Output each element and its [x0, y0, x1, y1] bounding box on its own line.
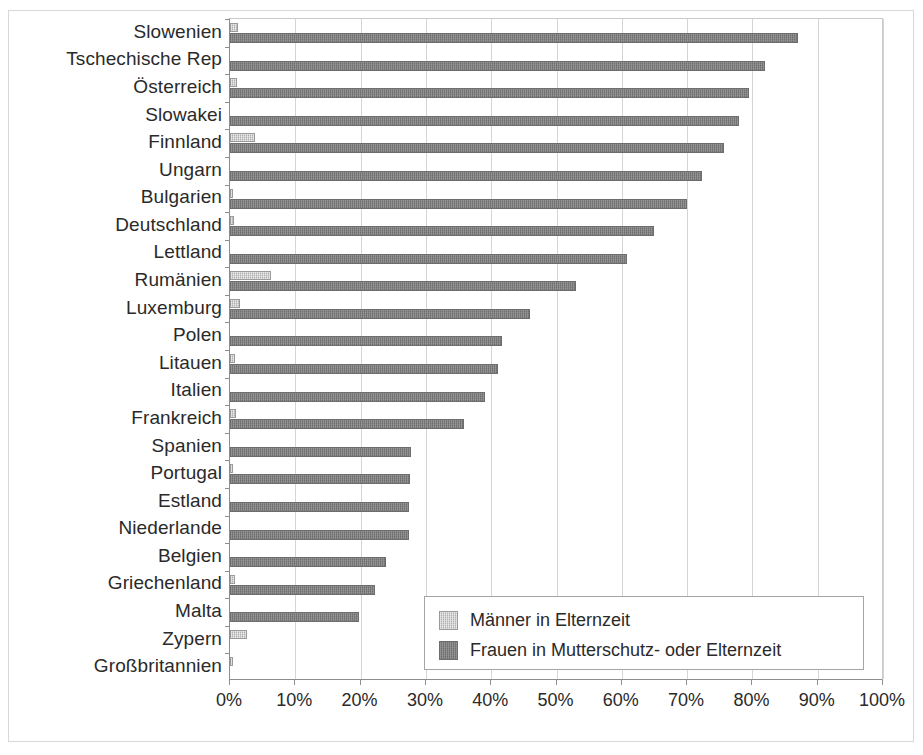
legend-swatch-maenner-icon [439, 611, 458, 630]
bar-maenner [230, 409, 236, 418]
plot-area [229, 18, 883, 680]
y-axis-tick [225, 240, 230, 241]
x-axis-tick-label: 100% [859, 690, 905, 711]
y-axis-label-gro-britannien: Großbritannien [0, 655, 222, 677]
y-axis-tick [225, 653, 230, 654]
x-axis-tick-label: 0% [216, 690, 242, 711]
x-axis-tick [686, 680, 687, 685]
x-axis-tick [490, 680, 491, 685]
x-axis-tick [751, 680, 752, 685]
x-axis-tick-label: 20% [342, 690, 378, 711]
x-axis-tick [556, 680, 557, 685]
bar-row [230, 185, 882, 213]
y-axis-tick [225, 433, 230, 434]
bar-row [230, 571, 882, 599]
x-axis-ticks [229, 680, 883, 686]
y-axis-tick [225, 543, 230, 544]
x-axis-tick-label: 40% [472, 690, 508, 711]
y-axis-tick [225, 267, 230, 268]
x-axis-tick [294, 680, 295, 685]
bar-row [230, 378, 882, 406]
bar-row [230, 212, 882, 240]
bar-row [230, 543, 882, 571]
bar-maenner [230, 133, 255, 142]
y-axis-tick [225, 102, 230, 103]
y-axis-tick [225, 378, 230, 379]
bar-maenner [230, 464, 233, 473]
x-axis-tick-label: 80% [733, 690, 769, 711]
bar-maenner [230, 216, 234, 225]
bar-frauen [230, 585, 375, 595]
bar-maenner [230, 299, 240, 308]
bar-row [230, 157, 882, 185]
x-axis-tick-label: 10% [276, 690, 312, 711]
x-axis-tick-label: 90% [799, 690, 835, 711]
bar-row [230, 516, 882, 544]
y-axis-tick [225, 516, 230, 517]
legend-item-frauen: Frauen in Mutterschutz- oder Elternzeit [439, 639, 781, 661]
y-axis-label-italien: Italien [0, 379, 222, 401]
bar-frauen [230, 364, 498, 374]
x-axis-tick [882, 680, 883, 685]
bar-maenner [230, 575, 235, 584]
bar-frauen [230, 33, 798, 43]
bar-frauen [230, 226, 654, 236]
bar-row [230, 460, 882, 488]
y-axis-tick [225, 212, 230, 213]
bar-row [230, 433, 882, 461]
bar-frauen [230, 557, 386, 567]
y-axis-tick [225, 571, 230, 572]
bar-row [230, 74, 882, 102]
y-axis-label-finnland: Finnland [0, 131, 222, 153]
bar-frauen [230, 474, 410, 484]
y-axis-label-estland: Estland [0, 490, 222, 512]
bar-row [230, 350, 882, 378]
bar-row [230, 322, 882, 350]
bar-frauen [230, 199, 687, 209]
y-axis-labels: SlowenienTschechische RepÖsterreichSlowa… [0, 18, 222, 680]
y-axis-tick [225, 129, 230, 130]
y-axis-label-slowenien: Slowenien [0, 21, 222, 43]
x-axis-tick [360, 680, 361, 685]
bar-frauen [230, 61, 765, 71]
bar-maenner [230, 189, 233, 198]
bar-frauen [230, 309, 530, 319]
bar-frauen [230, 171, 702, 181]
bar-row [230, 267, 882, 295]
y-axis-tick [225, 74, 230, 75]
bar-frauen [230, 612, 359, 622]
y-axis-label-belgien: Belgien [0, 545, 222, 567]
x-axis-tick [817, 680, 818, 685]
y-axis-tick [225, 19, 230, 20]
bar-frauen [230, 143, 724, 153]
x-axis-tick-labels: 0%10%20%30%40%50%60%70%80%90%100% [0, 690, 923, 720]
y-axis-label-malta: Malta [0, 600, 222, 622]
bar-row [230, 19, 882, 47]
y-axis-label-griechenland: Griechenland [0, 572, 222, 594]
y-axis-tick [225, 157, 230, 158]
x-axis-tick-label: 70% [668, 690, 704, 711]
x-axis-tick [621, 680, 622, 685]
bar-row [230, 129, 882, 157]
y-axis-label-luxemburg: Luxemburg [0, 297, 222, 319]
y-axis-label-niederlande: Niederlande [0, 517, 222, 539]
y-axis-tick [225, 47, 230, 48]
y-axis-label-zypern: Zypern [0, 628, 222, 650]
bar-maenner [230, 23, 238, 32]
chart-figure: SlowenienTschechische RepÖsterreichSlowa… [0, 0, 923, 755]
x-axis-tick [425, 680, 426, 685]
x-axis-tick-label: 50% [537, 690, 573, 711]
bar-maenner [230, 630, 247, 639]
y-axis-label--sterreich: Österreich [0, 76, 222, 98]
x-axis-tick-label: 30% [407, 690, 443, 711]
legend-item-maenner: Männer in Elternzeit [439, 609, 630, 631]
bar-frauen [230, 116, 739, 126]
y-axis-label-spanien: Spanien [0, 435, 222, 457]
bar-frauen [230, 88, 749, 98]
chart-legend: Männer in Elternzeit Frauen in Muttersch… [424, 596, 864, 670]
bar-frauen [230, 392, 485, 402]
bar-frauen [230, 530, 409, 540]
y-axis-label-portugal: Portugal [0, 462, 222, 484]
y-axis-tick [225, 488, 230, 489]
y-axis-label-lettland: Lettland [0, 241, 222, 263]
